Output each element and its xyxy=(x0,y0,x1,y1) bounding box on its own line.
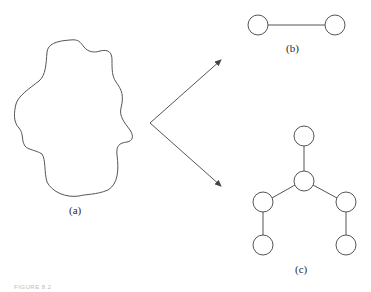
node-c-center xyxy=(294,171,314,191)
node-b-right xyxy=(325,15,345,35)
figure-b: (b) xyxy=(248,15,345,55)
arrow-to-b xyxy=(150,60,221,123)
label-a: (a) xyxy=(69,204,82,217)
node-c-right xyxy=(336,192,356,212)
node-c-bottom-left xyxy=(253,235,273,255)
edge-center-left xyxy=(272,185,295,198)
node-b-left xyxy=(248,15,268,35)
arrow-to-c xyxy=(150,123,221,186)
arrows xyxy=(150,60,221,186)
label-b: (b) xyxy=(286,42,299,55)
node-c-left xyxy=(253,192,273,212)
node-c-top xyxy=(294,126,314,146)
label-c: (c) xyxy=(295,263,308,276)
node-c-bottom-right xyxy=(336,235,356,255)
figure-a: (a) xyxy=(14,40,132,217)
figure-c: (c) xyxy=(253,126,356,276)
figure-caption: FIGURE 8.2 xyxy=(14,284,52,290)
diagram-canvas: (a) (b) (c) xyxy=(0,0,371,292)
edge-center-right xyxy=(313,185,337,198)
irregular-region-shape xyxy=(14,40,132,197)
